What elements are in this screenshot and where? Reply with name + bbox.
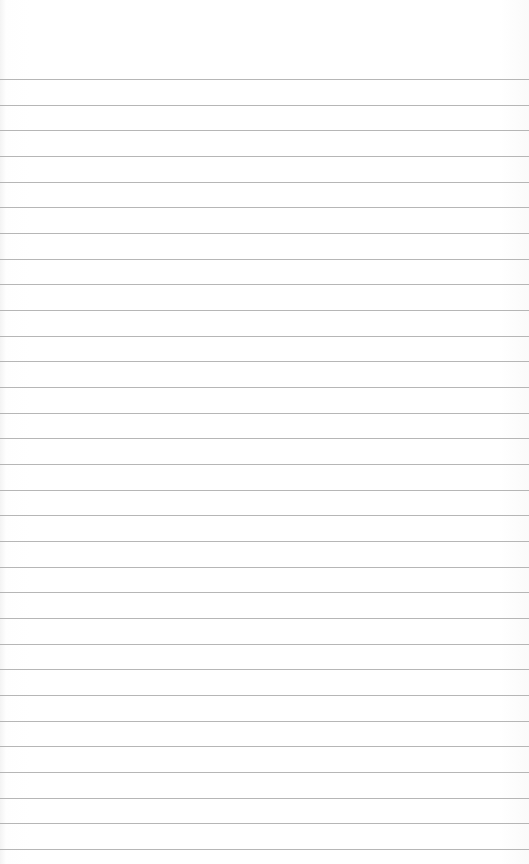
lined-paper (0, 0, 529, 864)
ruled-line (0, 695, 529, 696)
ruled-line (0, 336, 529, 337)
ruled-line (0, 387, 529, 388)
ruled-line (0, 105, 529, 106)
ruled-line (0, 310, 529, 311)
ruled-line (0, 156, 529, 157)
ruled-line (0, 618, 529, 619)
ruled-line (0, 669, 529, 670)
ruled-line (0, 644, 529, 645)
ruled-line (0, 541, 529, 542)
ruled-line (0, 413, 529, 414)
ruled-line (0, 721, 529, 722)
ruled-line (0, 79, 529, 80)
ruled-line (0, 182, 529, 183)
ruled-line (0, 798, 529, 799)
ruled-line (0, 849, 529, 850)
ruled-line (0, 130, 529, 131)
ruled-line (0, 567, 529, 568)
ruled-line (0, 361, 529, 362)
ruled-line (0, 592, 529, 593)
ruled-line (0, 515, 529, 516)
ruled-line (0, 772, 529, 773)
ruled-line (0, 259, 529, 260)
ruled-line (0, 207, 529, 208)
ruled-line (0, 233, 529, 234)
ruled-line (0, 823, 529, 824)
ruled-line (0, 464, 529, 465)
ruled-line (0, 438, 529, 439)
ruled-line (0, 490, 529, 491)
ruled-line (0, 284, 529, 285)
ruled-line (0, 746, 529, 747)
